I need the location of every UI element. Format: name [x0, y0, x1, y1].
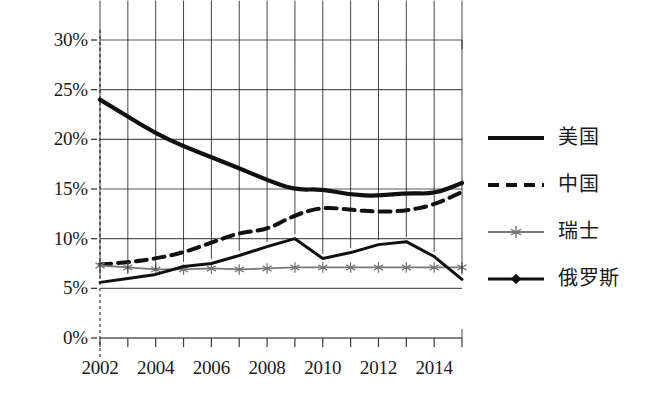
legend-item-label: 美国	[558, 127, 599, 147]
legend-item-label: 瑞士	[558, 221, 599, 241]
legend-item-label: 俄罗斯	[558, 268, 620, 288]
legend-swatch-2	[487, 220, 545, 244]
y-axis-tick-label: 0%	[20, 328, 88, 347]
x-axis-tick-label: 2014	[399, 358, 469, 377]
legend-swatch-3	[487, 267, 545, 291]
y-axis-tick-label: 30%	[20, 30, 88, 49]
legend-swatch-1	[487, 173, 545, 197]
y-axis-tick-label: 15%	[20, 179, 88, 198]
y-axis-tick-label: 10%	[20, 229, 88, 248]
legend-swatch-0	[487, 126, 545, 150]
y-axis-tick-label: 25%	[20, 80, 88, 99]
y-axis-tick-label: 20%	[20, 129, 88, 148]
series-line-0	[100, 100, 462, 196]
chart-plot-area	[0, 0, 650, 408]
legend-marker-diamond	[511, 274, 521, 284]
line-chart: 0%5%10%15%20%25%30% 20022004200620082010…	[0, 0, 650, 408]
series-line-1	[100, 192, 462, 265]
legend-item-label: 中国	[558, 174, 599, 194]
y-axis-tick-label: 5%	[20, 278, 88, 297]
